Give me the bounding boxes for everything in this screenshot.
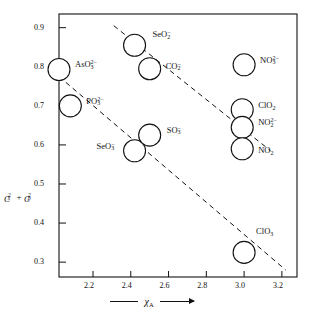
data-point-so3: [139, 124, 161, 146]
point-label-no3: NO2−3: [260, 56, 277, 65]
y-tick-label: 0.9: [34, 23, 44, 32]
data-point-aso3: [48, 58, 70, 80]
x-tick-label: 3.0: [235, 281, 245, 290]
x-tick-label: 2.4: [122, 281, 132, 290]
x-axis-left-rule: [110, 301, 138, 302]
point-label-aso3: AsO2−3: [75, 60, 95, 69]
y-axis-label: C2s + C2p: [4, 192, 34, 204]
x-tick-label: 2.2: [84, 281, 94, 290]
x-tick-label: 2.8: [197, 281, 207, 290]
point-label-no2d: NO2−2: [258, 118, 275, 127]
data-point-no3: [233, 54, 255, 76]
data-point-co2: [139, 58, 161, 80]
point-label-clo2: ClO2: [258, 101, 275, 111]
data-point-no2d: [231, 116, 253, 138]
y-tick-label: 0.3: [34, 257, 44, 266]
x-axis-label: χA: [110, 296, 194, 308]
x-axis-arrow: [160, 301, 194, 302]
point-label-clo3: ClO3: [256, 227, 273, 237]
point-label-po3: PO2−3: [86, 97, 102, 106]
y-tick-label: 0.5: [34, 179, 44, 188]
data-point-po3: [59, 95, 81, 117]
data-point-clo3: [233, 241, 255, 263]
y-tick-label: 0.4: [34, 218, 44, 227]
point-label-so3: SO−3: [167, 126, 183, 135]
point-label-co2: CO−2: [166, 62, 182, 71]
data-point-no2: [231, 138, 253, 160]
y-tick-label: 0.7: [34, 101, 44, 110]
scatter-plot-canvas: [0, 0, 314, 320]
chart-figure: 2.22.42.62.83.03.20.90.80.70.60.50.40.3 …: [0, 0, 314, 320]
data-point-seo2: [124, 34, 146, 56]
point-label-seo3: SeO−3: [97, 142, 116, 151]
y-tick-label: 0.8: [34, 62, 44, 71]
x-tick-label: 3.2: [273, 281, 283, 290]
point-label-seo2: SeO−2: [153, 30, 172, 39]
x-tick-label: 2.6: [160, 281, 170, 290]
y-tick-label: 0.6: [34, 140, 44, 149]
x-axis-symbol: χA: [145, 296, 154, 307]
point-label-no2: NO2: [258, 146, 273, 156]
